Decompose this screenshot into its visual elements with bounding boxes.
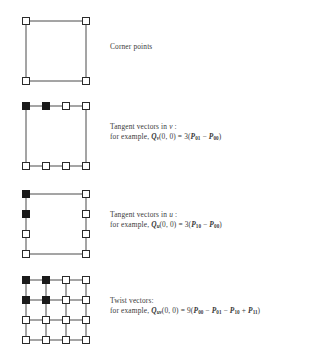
formula-term-subscript: 10: [196, 224, 201, 230]
control-point-open: [63, 337, 70, 344]
control-point-open: [43, 163, 50, 170]
formula-operator: −: [203, 220, 207, 229]
formula-prefix: for example,: [110, 132, 149, 141]
control-point-open: [83, 78, 90, 85]
corner-points-svg: [21, 16, 91, 86]
control-point-filled: [23, 211, 30, 218]
diagram-corner-points: [21, 16, 91, 90]
diagram-tangent-vectors-u: [21, 189, 91, 263]
formula-arguments: (0, 0) = 3(: [159, 132, 191, 141]
control-point-open: [63, 103, 70, 110]
formula-arguments: (0, 0) = 9(: [162, 306, 194, 315]
formula-Q-symbol: Qv: [151, 132, 159, 141]
control-point-open: [83, 251, 90, 258]
caption-title-suffix: :: [175, 210, 177, 219]
control-point-open: [83, 231, 90, 238]
caption-tangent-v: Tangent vectors in v : for example, Qv(0…: [110, 122, 221, 144]
formula-term-subscript: 10: [235, 310, 240, 316]
tangent-u-svg: [21, 189, 91, 259]
control-point-figure: Corner points Tangent ve: [0, 0, 321, 354]
caption-formula: for example, Quv(0, 0) = 9(P00 − P01 − P…: [110, 306, 260, 318]
twist-vectors-svg: [21, 275, 91, 345]
caption-twist-vectors: Twist vectors: for example, Quv(0, 0) = …: [110, 296, 260, 318]
formula-term: P00: [193, 306, 203, 315]
control-point-filled: [43, 103, 50, 110]
formula-term: P11: [248, 306, 258, 315]
control-point-open: [83, 277, 90, 284]
control-point-open: [83, 317, 90, 324]
control-point-open: [83, 103, 90, 110]
control-point-open: [63, 163, 70, 170]
formula-term: P00: [209, 220, 219, 229]
formula-Q-symbol: Qu: [151, 220, 159, 229]
control-point-open: [83, 18, 90, 25]
formula-close-paren: ): [219, 220, 222, 229]
control-point-open: [63, 297, 70, 304]
caption-title-text: Tangent vectors in: [110, 210, 167, 219]
formula-close-paren: ): [258, 306, 261, 315]
caption-title: Corner points: [110, 42, 152, 52]
caption-title: Tangent vectors in v :: [110, 122, 221, 132]
control-point-open: [43, 317, 50, 324]
control-point-filled: [43, 297, 50, 304]
caption-title-suffix: :: [175, 122, 177, 131]
caption-title: Twist vectors:: [110, 296, 260, 306]
formula-term: P01: [212, 306, 222, 315]
caption-corner-points: Corner points: [110, 42, 152, 52]
control-point-open: [83, 163, 90, 170]
formula-term: P01: [191, 132, 201, 141]
formula-term-subscript: 01: [195, 136, 200, 142]
caption-formula: for example, Qv(0, 0) = 3(P01 − P00): [110, 132, 221, 144]
control-point-open: [23, 337, 30, 344]
formula-term: P00: [209, 132, 219, 141]
control-point-open: [63, 277, 70, 284]
formula-prefix: for example,: [110, 220, 149, 229]
formula-term: P10: [191, 220, 201, 229]
formula-prefix: for example,: [110, 306, 149, 315]
control-point-filled: [23, 297, 30, 304]
caption-title-variable: v: [169, 122, 172, 131]
caption-formula: for example, Qu(0, 0) = 3(P10 − P00): [110, 220, 222, 232]
control-point-open: [23, 18, 30, 25]
formula-operator: −: [205, 306, 209, 315]
caption-title-text: Tangent vectors in: [110, 122, 167, 131]
caption-tangent-u: Tangent vectors in u : for example, Qu(0…: [110, 210, 222, 232]
control-point-open: [23, 163, 30, 170]
formula-operator: +: [242, 306, 246, 315]
control-point-filled: [23, 277, 30, 284]
formula-term: P10: [230, 306, 240, 315]
control-point-open: [83, 297, 90, 304]
control-point-filled: [43, 277, 50, 284]
diagram-tangent-vectors-v: [21, 101, 91, 175]
control-point-filled: [23, 103, 30, 110]
control-point-open: [63, 317, 70, 324]
formula-operator: −: [202, 132, 206, 141]
caption-title: Tangent vectors in u :: [110, 210, 222, 220]
formula-term-subscript: 00: [198, 310, 203, 316]
control-point-filled: [23, 191, 30, 198]
control-point-open: [83, 211, 90, 218]
formula-arguments: (0, 0) = 3(: [160, 220, 192, 229]
formula-Q-symbol: Quv: [151, 306, 162, 315]
control-point-open: [23, 78, 30, 85]
control-point-open: [23, 317, 30, 324]
tangent-v-svg: [21, 101, 91, 171]
formula-term-subscript: 01: [216, 310, 221, 316]
control-point-open: [43, 337, 50, 344]
control-point-open: [23, 231, 30, 238]
control-point-open: [83, 191, 90, 198]
control-point-open: [83, 337, 90, 344]
control-point-open: [23, 251, 30, 258]
formula-close-paren: ): [219, 132, 222, 141]
caption-title-variable: u: [169, 210, 173, 219]
diagram-twist-vectors: [21, 275, 91, 349]
formula-operator: −: [224, 306, 228, 315]
